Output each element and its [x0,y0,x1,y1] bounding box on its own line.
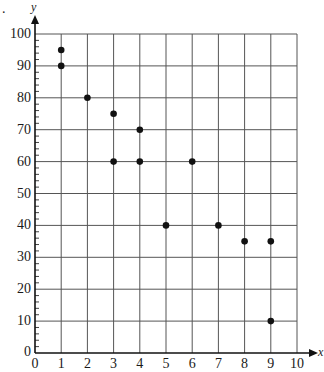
x-tick-label: 9 [267,357,274,371]
y-axis-arrow-icon [31,15,39,24]
y-tick-label: 100 [10,27,31,41]
x-axis-arrow-icon [309,349,318,357]
y-tick-label: 40 [17,218,31,232]
data-point [137,126,144,133]
grid-lines [35,34,297,353]
x-tick-label: 4 [136,357,143,371]
y-tick-label: 90 [17,59,31,73]
data-point [58,63,65,70]
data-point [137,158,144,165]
data-point [84,95,91,102]
data-point [189,158,196,165]
y-tick-label: 0 [24,345,31,359]
x-tick-label: 1 [58,357,65,371]
data-point [268,238,275,245]
data-point [58,47,65,54]
x-tick-label: 6 [189,357,196,371]
x-tick-label: 5 [163,357,170,371]
data-point [268,318,275,325]
y-tick-label: 80 [17,91,31,105]
y-tick-label: 70 [17,123,31,137]
y-tick-label: 60 [17,155,31,169]
data-point [241,238,248,245]
x-tick-label: 0 [32,357,39,371]
y-tick-label: 10 [17,314,31,328]
data-point [163,222,170,229]
y-tick-label: 30 [17,250,31,264]
y-tick-label: 50 [17,187,31,201]
x-tick-label: 2 [84,357,91,371]
data-point [110,158,117,165]
x-tick-label: 8 [241,357,248,371]
data-point [215,222,222,229]
x-tick-label: 3 [110,357,117,371]
scatter-chart [0,0,324,372]
data-point [110,110,117,117]
y-tick-label: 20 [17,282,31,296]
x-tick-label: 10 [290,357,304,371]
x-tick-label: 7 [215,357,222,371]
y-axis-label: y [31,1,36,13]
x-axis-label: x [318,346,323,358]
